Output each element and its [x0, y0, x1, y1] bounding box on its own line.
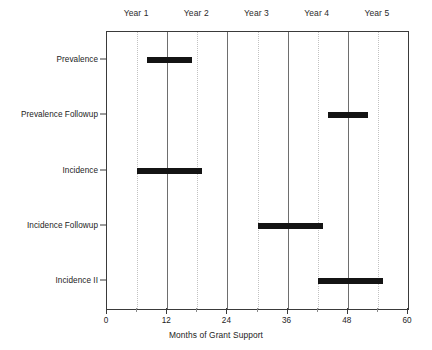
- year-band-label: Year 3: [227, 8, 287, 18]
- gantt-chart: Year 1Year 2Year 3Year 4Year 5 Months of…: [0, 0, 432, 350]
- gridline-major: [348, 32, 349, 309]
- x-axis-tick-minor: [196, 308, 197, 312]
- x-axis-tick-label: 12: [162, 316, 171, 325]
- year-band-labels: Year 1Year 2Year 3Year 4Year 5: [106, 8, 407, 22]
- y-axis-category-label: Incidence: [63, 165, 99, 174]
- y-axis-category-label: Incidence II: [56, 276, 98, 285]
- x-axis-tick-label: 48: [342, 316, 351, 325]
- year-band-label: Year 4: [287, 8, 347, 18]
- x-axis-title: Months of Grant Support: [0, 330, 432, 340]
- x-axis-tick: [106, 308, 107, 314]
- x-axis-tick-minor: [377, 308, 378, 312]
- y-axis-tick: [100, 114, 106, 115]
- gridline-major: [288, 32, 289, 309]
- gridline-minor: [318, 32, 319, 309]
- x-axis-tick-minor: [136, 308, 137, 312]
- x-axis-tick-label: 24: [222, 316, 231, 325]
- gridline-major: [227, 32, 228, 309]
- year-band-label: Year 2: [166, 8, 226, 18]
- gridline-minor: [258, 32, 259, 309]
- y-axis-category-label: Prevalence Followup: [21, 110, 98, 119]
- x-axis-tick: [166, 308, 167, 314]
- gantt-bar: [137, 168, 202, 174]
- x-axis-tick-label: 60: [402, 316, 411, 325]
- gantt-bar: [147, 57, 192, 63]
- year-band-label: Year 5: [347, 8, 407, 18]
- x-axis-tick-label: 0: [104, 316, 109, 325]
- plot-area: [106, 31, 409, 310]
- x-axis-tick-minor: [257, 308, 258, 312]
- y-axis-tick: [100, 58, 106, 59]
- gridline-minor: [378, 32, 379, 309]
- gantt-bar: [318, 278, 383, 284]
- gantt-bar: [258, 223, 323, 229]
- y-axis-tick: [100, 224, 106, 225]
- x-axis-tick-label: 36: [282, 316, 291, 325]
- y-axis-category-label: Prevalence: [57, 54, 98, 63]
- x-axis-tick: [226, 308, 227, 314]
- gantt-bar: [328, 112, 368, 118]
- y-axis-tick: [100, 280, 106, 281]
- x-axis-tick: [347, 308, 348, 314]
- y-axis-category-label: Incidence Followup: [27, 220, 98, 229]
- x-axis-tick: [287, 308, 288, 314]
- year-band-label: Year 1: [106, 8, 166, 18]
- x-axis-tick: [407, 308, 408, 314]
- y-axis-tick: [100, 169, 106, 170]
- x-axis-tick-minor: [317, 308, 318, 312]
